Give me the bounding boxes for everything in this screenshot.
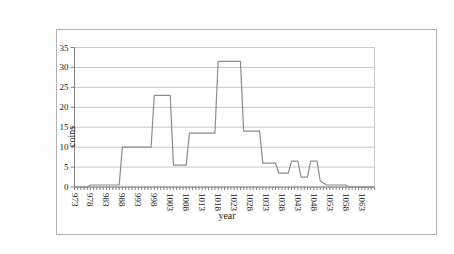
svg-text:983: 983 bbox=[101, 193, 111, 207]
svg-text:1003: 1003 bbox=[165, 193, 175, 212]
svg-text:1018: 1018 bbox=[213, 193, 223, 212]
x-axis-title: year bbox=[207, 210, 247, 221]
gridlines bbox=[75, 48, 375, 188]
svg-text:998: 998 bbox=[149, 193, 159, 207]
svg-text:5: 5 bbox=[64, 162, 69, 172]
svg-text:1038: 1038 bbox=[277, 193, 287, 212]
y-axis-tick-labels: 05101520253035 bbox=[60, 43, 70, 193]
svg-text:1053: 1053 bbox=[325, 193, 335, 212]
x-axis-tick-labels: 9739789839889939981003100810131018102310… bbox=[70, 193, 367, 212]
y-axis-title: coins bbox=[66, 122, 77, 152]
svg-text:1048: 1048 bbox=[309, 193, 319, 212]
svg-text:0: 0 bbox=[64, 182, 69, 192]
svg-text:1043: 1043 bbox=[293, 193, 303, 211]
svg-text:988: 988 bbox=[117, 193, 127, 207]
svg-text:993: 993 bbox=[133, 193, 143, 207]
svg-text:20: 20 bbox=[60, 102, 70, 112]
svg-text:30: 30 bbox=[60, 62, 70, 72]
svg-text:1033: 1033 bbox=[261, 193, 271, 212]
series-line-coins bbox=[75, 61, 375, 187]
axes bbox=[75, 48, 375, 188]
svg-text:1058: 1058 bbox=[341, 193, 351, 212]
svg-text:1008: 1008 bbox=[181, 193, 191, 212]
svg-text:1028: 1028 bbox=[245, 193, 255, 212]
chart-frame: 0510152025303597397898398899399810031008… bbox=[56, 29, 437, 235]
svg-text:1013: 1013 bbox=[197, 193, 207, 212]
svg-text:973: 973 bbox=[70, 193, 80, 207]
svg-text:1023: 1023 bbox=[229, 193, 239, 212]
svg-text:978: 978 bbox=[85, 193, 95, 207]
coins-per-year-chart: 0510152025303597397898398899399810031008… bbox=[57, 30, 438, 240]
svg-text:1063: 1063 bbox=[357, 193, 367, 212]
tick-marks bbox=[71, 48, 375, 191]
svg-text:25: 25 bbox=[60, 82, 70, 92]
svg-text:35: 35 bbox=[60, 43, 70, 53]
